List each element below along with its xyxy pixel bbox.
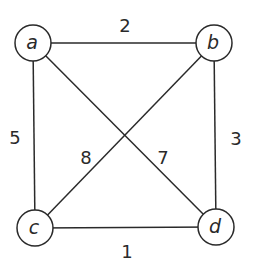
edge-weight-a-c: 5 bbox=[9, 127, 20, 148]
edge-weight-b-d: 3 bbox=[230, 128, 241, 149]
node-label-c: c bbox=[29, 216, 40, 238]
edge-c-d bbox=[35, 227, 216, 228]
edge-a-d bbox=[33, 43, 216, 227]
edge-a-c bbox=[33, 43, 35, 228]
edge-weight-a-b: 2 bbox=[119, 15, 130, 36]
node-label-a: a bbox=[26, 31, 38, 53]
node-c: c bbox=[17, 210, 53, 246]
edges-group bbox=[33, 43, 216, 228]
node-label-d: d bbox=[209, 215, 222, 237]
node-d: d bbox=[198, 209, 234, 245]
node-b: b bbox=[196, 25, 232, 61]
edge-b-d bbox=[214, 43, 216, 227]
weighted-graph-diagram: 253871 abcd bbox=[0, 0, 256, 272]
edge-weight-b-c: 8 bbox=[80, 147, 91, 168]
edge-weight-a-d: 7 bbox=[157, 147, 168, 168]
node-label-b: b bbox=[207, 31, 219, 53]
graph-svg: 253871 abcd bbox=[0, 0, 256, 272]
node-a: a bbox=[15, 25, 51, 61]
edge-weight-c-d: 1 bbox=[121, 241, 132, 262]
